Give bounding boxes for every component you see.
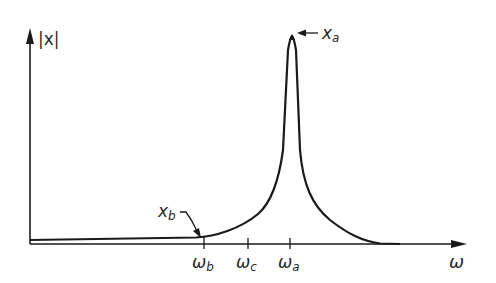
tick-label-omega-b: ωb <box>192 252 214 274</box>
svg-text:xa: xa <box>321 23 339 45</box>
x-axis-label: ω <box>449 251 464 272</box>
y-axis-arrowhead-icon <box>26 28 34 44</box>
tick-label-omega-c: ωc <box>236 252 257 274</box>
peak-marker <box>289 34 295 40</box>
annotation-x-a: xa <box>297 23 339 45</box>
resonance-diagram: |x| ω ωb ωc ωa xa xb <box>0 0 496 283</box>
svg-text:xb: xb <box>157 201 176 223</box>
response-curve <box>30 36 400 244</box>
y-axis <box>26 28 34 244</box>
x-ticks <box>204 236 290 249</box>
tick-label-omega-a: ωa <box>278 252 300 274</box>
annotation-x-b: xb <box>157 201 201 238</box>
arrow-left-icon <box>297 30 306 37</box>
x-axis-arrowhead-icon <box>451 240 467 248</box>
y-axis-label: |x| <box>38 29 60 49</box>
